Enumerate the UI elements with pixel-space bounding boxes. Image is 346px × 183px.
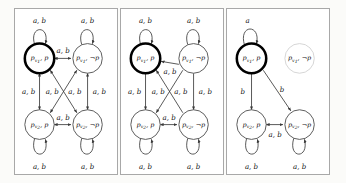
panel-reduced-structure: pv1, p pv1, ¬p pv2, p pv2, ¬p a a, b a, … <box>226 8 330 175</box>
edge-label-self-top-right: a, b <box>187 16 201 25</box>
state-label-bottom-left: pv2, p <box>243 121 261 130</box>
edge-label-top-horizontal: a, b <box>163 67 177 76</box>
self-loop-top-right <box>81 30 94 45</box>
state-label-bottom-left: pv2, p <box>137 121 155 130</box>
edge-label-self-bottom-left: a, b <box>139 162 153 171</box>
edge-label-right-vertical: a, b <box>93 87 107 96</box>
edge-label-self-top-left: a, b <box>33 16 47 25</box>
edge-label-self-bottom-left: a, b <box>33 162 47 171</box>
state-label-top-right: pv1, ¬p <box>182 54 205 63</box>
panel-partially-pruned: pv1, p pv1, ¬p pv2, p pv2, ¬p a, b a, b … <box>120 8 224 175</box>
edge-label-top-horizontal: a, b <box>56 46 70 55</box>
self-loop-bottom-right <box>81 138 94 154</box>
edge-label-self-top-left: a <box>245 16 249 25</box>
edge-label-bottom-horizontal: a, b <box>268 130 282 139</box>
edge-label-self-top-right: a, b <box>81 16 95 25</box>
edge-label-bottom-horizontal: a, b <box>56 113 70 122</box>
self-loop-bottom-left <box>140 138 153 154</box>
state-label-top-right-inactive: pv1, ¬p <box>288 54 311 63</box>
self-loop-top-right <box>187 30 200 45</box>
state-label-bottom-left: pv2, p <box>31 121 49 130</box>
edge-label-self-bottom-right: a, b <box>81 162 95 171</box>
state-label-bottom-right: pv2, ¬p <box>182 121 205 130</box>
edge-label-diagonal-b: a, b <box>174 87 188 96</box>
edge-label-left-vertical: b <box>240 87 245 96</box>
self-loop-bottom-right <box>187 138 200 154</box>
edge-label-self-bottom-right: a, b <box>187 162 201 171</box>
state-label-top-left: pv1, p <box>243 54 261 63</box>
state-label-top-right: pv1, ¬p <box>76 54 99 63</box>
self-loop-bottom-right <box>293 138 306 154</box>
edge-label-left-vertical: a, b <box>128 87 142 96</box>
self-loop-bottom-left <box>246 138 259 154</box>
state-label-bottom-right: pv2, ¬p <box>288 121 311 130</box>
panel-full-structure: pv1, p pv1, ¬p pv2, p pv2, ¬p a, b a, b … <box>14 8 118 175</box>
edge-label-right-vertical: a, b <box>199 87 213 96</box>
state-label-top-left: pv1, p <box>137 54 155 63</box>
edge-label-diagonal-a: a, b <box>152 87 166 96</box>
state-label-bottom-right: pv2, ¬p <box>76 121 99 130</box>
figure-root: pv1, p pv1, ¬p pv2, p pv2, ¬p a, b a, b … <box>0 0 346 183</box>
self-loop-bottom-left <box>34 138 47 154</box>
edge-label-diagonal-b: a, b <box>68 87 82 96</box>
edge-label-self-top-left: a, b <box>139 16 153 25</box>
edge-label-bottom-horizontal: a, b <box>162 113 176 122</box>
edge-label-diagonal: b <box>280 85 285 94</box>
edge-top-horizontal <box>161 61 179 64</box>
edge-diagonal-tl-br <box>263 70 290 111</box>
edge-label-diagonal-a: a, b <box>46 87 60 96</box>
state-label-top-left: pv1, p <box>31 54 49 63</box>
edge-label-self-bottom-right: a, b <box>293 162 307 171</box>
edge-label-self-bottom-left: a, b <box>245 162 259 171</box>
edge-label-left-vertical: a, b <box>22 87 36 96</box>
